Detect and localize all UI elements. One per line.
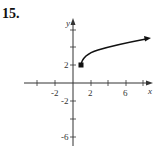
x-axis: -2 2 6 x: [24, 80, 153, 98]
y-tick-label: -2: [61, 96, 69, 106]
function-curve: [79, 36, 152, 68]
y-tick-label: 2: [64, 60, 69, 70]
curve-arrow-icon: [144, 36, 151, 42]
x-axis-label: x: [147, 86, 152, 96]
y-tick-label: -6: [61, 132, 69, 142]
y-axis: 2 -2 -6 y: [61, 18, 76, 146]
x-tick-label: 2: [88, 88, 93, 98]
y-axis-label: y: [65, 18, 70, 28]
x-axis-arrow-icon: [146, 81, 153, 86]
y-axis-arrow-icon: [71, 18, 76, 25]
x-tick-label: -2: [51, 88, 59, 98]
closed-endpoint-dot: [79, 63, 84, 68]
function-graph: -2 2 6 x 2 -2 -6 y: [0, 0, 162, 157]
x-tick-label: 6: [123, 88, 128, 98]
